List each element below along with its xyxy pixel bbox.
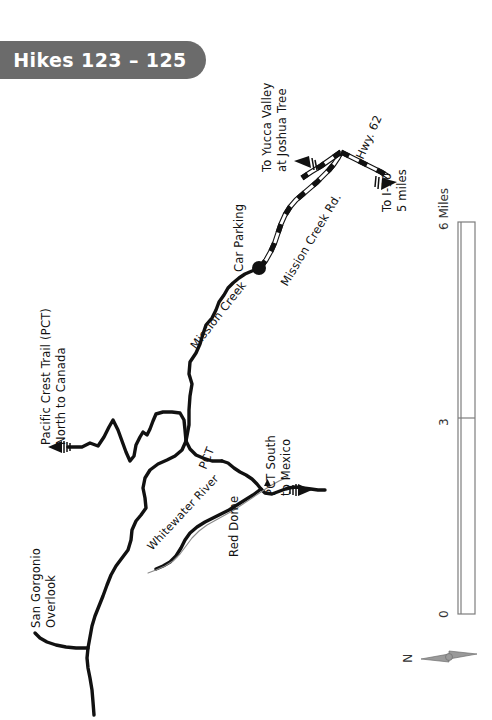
compass-rose: N (400, 651, 477, 663)
hwy62-west-arrow-icon (294, 156, 317, 170)
southern-loop-trail (87, 441, 186, 715)
pct-south-arrow-icon (290, 484, 312, 496)
label-pct: PCT (196, 444, 218, 471)
label-i10-distance: 5 miles (395, 169, 409, 212)
mission-creek-trail (186, 269, 258, 441)
label-car-parking: Car Parking (232, 204, 246, 272)
label-san-gorgonio: San Gorgonio (29, 548, 43, 628)
scale-tick-3: 3 (437, 418, 451, 426)
label-red-dome: Red Dome (227, 496, 241, 557)
compass-north-label: N (400, 654, 415, 663)
san-gorgonio-overlook-spur (35, 633, 88, 648)
label-pacific-crest-trail: Pacific Crest Trail (PCT) (39, 308, 53, 445)
label-to-mexico: to Mexico (279, 439, 293, 496)
label-mission-creek-rd: Mission Creek Rd. (278, 191, 344, 289)
map-figure: Hikes 123 – 125 (0, 0, 492, 720)
label-to-yucca-valley: To Yucca Valley (260, 83, 274, 173)
car-parking-marker (252, 261, 266, 275)
pct-trail-north-segment (68, 412, 222, 461)
label-mission-creek: Mission Creek (187, 278, 249, 351)
label-at-joshua-tree: at Joshua Tree (275, 88, 289, 172)
label-north-to-canada: North to Canada (54, 347, 68, 445)
scale-tick-6-miles: 6 Miles (437, 188, 451, 230)
label-hwy-62: Hwy. 62 (353, 113, 385, 161)
label-pct-south: PCT South (264, 435, 278, 496)
label-to-i10: To I-10 (380, 173, 394, 213)
map-canvas: To Yucca Valley at Joshua Tree Hwy. 62 T… (0, 0, 492, 720)
scale-bar: 0 3 6 Miles (437, 188, 475, 618)
label-overlook: Overlook (44, 575, 58, 628)
scale-tick-0: 0 (437, 610, 451, 618)
